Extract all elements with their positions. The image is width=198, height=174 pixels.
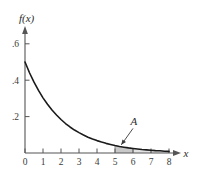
y-tick-label-.6: .6 [12,39,19,49]
plot-canvas: 012345678 .2.4.6 f(x) x A [0,0,198,174]
exponential-decay-figure: 012345678 .2.4.6 f(x) x A [0,0,198,174]
x-tick-label-7: 7 [149,157,154,167]
x-tick-label-5: 5 [113,157,118,167]
x-tick-label-2: 2 [59,157,64,167]
x-tick-label-4: 4 [95,157,100,167]
x-tick-label-1: 1 [41,157,46,167]
function-curve [25,62,169,151]
y-axis-arrowhead [22,26,28,34]
region-label-a: A [130,115,138,127]
x-axis-label: x [183,147,189,159]
y-tick-label-.4: .4 [12,76,19,86]
x-tick-label-0: 0 [23,157,28,167]
y-axis-ticks [25,44,30,117]
y-axis-label: f(x) [19,12,35,25]
x-axis-tick-labels: 012345678 [23,157,172,167]
x-tick-label-6: 6 [131,157,136,167]
x-axis-arrowhead [173,150,181,156]
x-tick-label-8: 8 [167,157,172,167]
x-tick-label-3: 3 [77,157,82,167]
annotation-arrowhead [121,139,126,144]
y-axis-tick-labels: .2.4.6 [12,39,19,122]
y-tick-label-.2: .2 [12,112,19,122]
